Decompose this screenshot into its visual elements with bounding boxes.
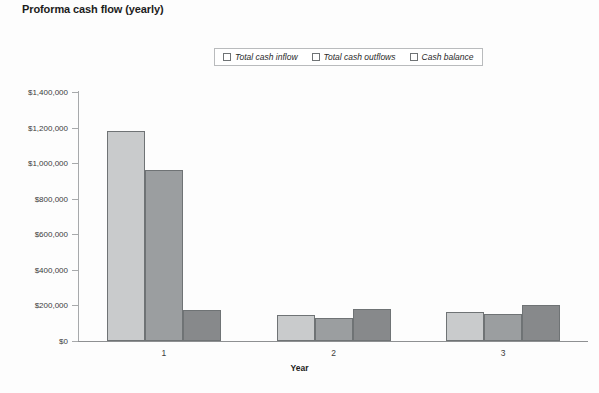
y-axis-tick-label: $800,000 xyxy=(35,194,68,203)
y-axis-tick xyxy=(72,234,78,235)
y-axis-tick xyxy=(72,128,78,129)
bar xyxy=(277,315,315,341)
bar xyxy=(522,305,560,341)
legend-label-series-2: Total cash outflows xyxy=(324,52,396,62)
legend-label-series-1: Total cash inflow xyxy=(235,52,298,62)
bar-group xyxy=(277,92,391,341)
legend-label-series-3: Cash balance xyxy=(422,52,474,62)
chart-container: Proforma cash flow (yearly) Total cash i… xyxy=(0,0,599,393)
y-axis-labels: $0$200,000$400,000$600,000$800,000$1,000… xyxy=(0,0,68,393)
x-axis-tick-label: 2 xyxy=(331,348,336,358)
y-axis-tick-label: $1,000,000 xyxy=(28,159,68,168)
legend-item-cash-balance: Cash balance xyxy=(410,52,474,62)
bar xyxy=(315,318,353,341)
bar-group xyxy=(107,92,221,341)
x-axis-tick-label: 1 xyxy=(161,348,166,358)
bar xyxy=(353,309,391,341)
y-axis-tick xyxy=(72,305,78,306)
y-axis-tick-label: $600,000 xyxy=(35,230,68,239)
x-axis-title: Year xyxy=(0,363,599,373)
y-axis-tick-label: $400,000 xyxy=(35,265,68,274)
bar xyxy=(446,312,484,341)
chart-legend: Total cash inflow Total cash outflows Ca… xyxy=(214,48,483,66)
x-axis-tick-label: 3 xyxy=(501,348,506,358)
bar xyxy=(145,170,183,341)
bar-group xyxy=(446,92,560,341)
legend-swatch-icon-series-3 xyxy=(410,53,418,61)
y-axis-tick xyxy=(72,92,78,93)
legend-swatch-icon-series-1 xyxy=(223,53,231,61)
y-axis-tick-label: $1,400,000 xyxy=(28,88,68,97)
y-axis-tick-label: $200,000 xyxy=(35,301,68,310)
bar xyxy=(484,314,522,341)
bar xyxy=(183,310,221,341)
bar-groups xyxy=(79,92,588,341)
legend-item-total-cash-inflow: Total cash inflow xyxy=(223,52,298,62)
y-axis-tick xyxy=(72,270,78,271)
legend-item-total-cash-outflows: Total cash outflows xyxy=(312,52,396,62)
bar xyxy=(107,131,145,341)
y-axis-tick xyxy=(72,199,78,200)
y-axis-tick-label: $1,200,000 xyxy=(28,123,68,132)
x-axis-line xyxy=(78,341,588,342)
legend-swatch-icon-series-2 xyxy=(312,53,320,61)
y-axis-tick xyxy=(72,163,78,164)
y-axis-tick-label: $0 xyxy=(59,337,68,346)
y-axis-tick xyxy=(72,341,78,342)
